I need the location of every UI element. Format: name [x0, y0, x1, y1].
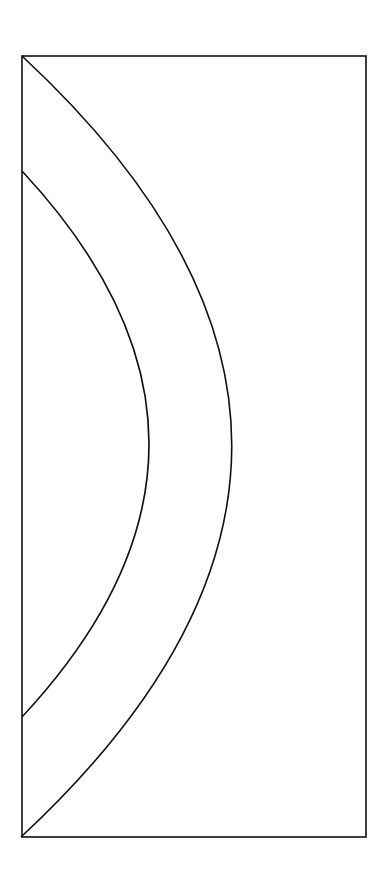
outer-arc — [21, 56, 232, 837]
frame-rectangle — [22, 56, 366, 837]
inner-arc — [22, 171, 149, 717]
diagram-canvas — [0, 0, 387, 879]
